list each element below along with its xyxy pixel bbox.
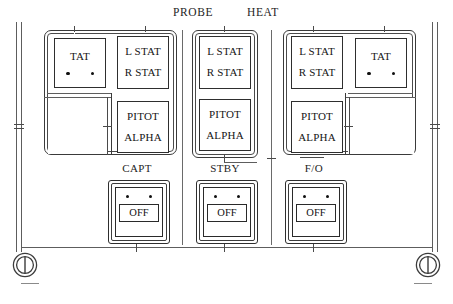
fo-group-tick-b: [384, 26, 385, 32]
annunciator-stat-left[interactable]: L STAT R STAT: [117, 36, 169, 89]
annunciator-label: TAT: [70, 51, 90, 63]
bottom-rail-tick-capt: [136, 243, 137, 252]
indicator-dots: [303, 195, 330, 198]
indicator-dot: [237, 195, 240, 198]
annunciator-label: R STAT: [125, 67, 162, 79]
capt-group-notch-edge-top-inner: [47, 93, 111, 94]
capt-group-tick-b: [145, 26, 146, 32]
annunciator-label: ALPHA: [124, 132, 162, 144]
indicator-dot: [367, 72, 370, 75]
panel-edge-right-tick-b: [430, 128, 440, 129]
panel-edge-left-inner: [21, 22, 22, 252]
fo-group-notch-edge-top-inner: [348, 93, 413, 94]
switch-caption-capt: CAPT: [110, 162, 164, 174]
fastener-bottom-right[interactable]: [415, 252, 441, 278]
annunciator-stat-right[interactable]: L STAT R STAT: [291, 36, 343, 89]
indicator-dots: [66, 72, 94, 75]
capt-group-side-tick: [103, 126, 112, 127]
probe-heat-panel: PROBE HEAT TAT L STAT R STAT PITO: [0, 0, 453, 304]
indicator-dot: [149, 195, 152, 198]
annunciator-pitot-right[interactable]: PITOT ALPHA: [291, 101, 343, 153]
indicator-dot: [392, 72, 395, 75]
annunciator-pitot-center[interactable]: PITOT ALPHA: [199, 99, 251, 151]
stby-group-tick: [224, 26, 225, 32]
divider-left: [182, 30, 183, 245]
annunciator-label: PITOT: [127, 111, 159, 123]
divider-right-tick: [267, 158, 276, 159]
bottom-rail-tick-fo: [313, 243, 314, 252]
annunciator-label: PITOT: [209, 109, 241, 121]
panel-edge-left-outer: [16, 22, 17, 252]
panel-edge-left-tick-b: [14, 128, 24, 129]
annunciator-label: TAT: [371, 51, 391, 63]
annunciator-pitot-left[interactable]: PITOT ALPHA: [117, 101, 169, 153]
fo-group-bottom-tick: [300, 157, 324, 158]
bottom-rail-tick-stby: [224, 243, 225, 252]
indicator-dot: [326, 195, 329, 198]
panel-skirt-right: [414, 283, 432, 284]
switch-stby-face[interactable]: OFF: [203, 187, 251, 237]
switch-caption-fo: F/O: [287, 162, 341, 174]
capt-group-notch-edge-top: [44, 97, 112, 98]
annunciator-tat-right[interactable]: TAT: [355, 38, 407, 88]
annunciator-label: L STAT: [207, 46, 243, 58]
panel-edge-right-tick-a: [430, 124, 440, 125]
annunciator-label: R STAT: [207, 67, 244, 79]
annunciator-stat-center[interactable]: L STAT R STAT: [199, 36, 251, 89]
panel-edge-right-inner: [437, 22, 438, 252]
indicator-dot: [126, 195, 129, 198]
capt-group-notch: [48, 98, 108, 154]
panel-edge-left-tick-a: [14, 124, 24, 125]
fo-group-side-tick: [344, 126, 353, 127]
annunciator-label: L STAT: [125, 46, 161, 58]
annunciator-label: R STAT: [299, 67, 336, 79]
panel-edge-right-outer: [432, 22, 433, 252]
panel-skirt-left: [21, 283, 39, 284]
fo-group-tick-a: [313, 26, 314, 32]
annunciator-label: PITOT: [301, 111, 333, 123]
indicator-dots: [126, 195, 153, 198]
indicator-dot: [91, 72, 94, 75]
indicator-dot: [66, 72, 69, 75]
fastener-bottom-left[interactable]: [12, 252, 38, 278]
indicator-dot: [214, 195, 217, 198]
indicator-dots: [367, 72, 395, 75]
switch-capt-face[interactable]: OFF: [115, 187, 163, 237]
panel-title-heat: HEAT: [247, 6, 279, 18]
switch-caption-stby: STBY: [198, 162, 252, 174]
switch-fo-face[interactable]: OFF: [292, 187, 340, 237]
capt-group-notch-edge-side: [111, 93, 112, 155]
fo-group-notch: [348, 98, 414, 154]
annunciator-tat-left[interactable]: TAT: [54, 38, 106, 88]
annunciator-label: ALPHA: [298, 132, 336, 144]
capt-group-tick-a: [74, 26, 75, 32]
indicator-dots: [214, 195, 241, 198]
annunciator-label: ALPHA: [206, 130, 244, 142]
panel-bottom-rail: [21, 247, 432, 248]
fo-group-notch-edge-side: [345, 93, 346, 155]
indicator-dot: [303, 195, 306, 198]
divider-right: [271, 30, 272, 245]
fo-group-notch-edge-top: [345, 97, 416, 98]
switch-off-label[interactable]: OFF: [207, 204, 246, 222]
switch-off-label[interactable]: OFF: [296, 204, 335, 222]
panel-title-probe: PROBE: [173, 6, 213, 18]
annunciator-label: L STAT: [299, 46, 335, 58]
switch-off-label[interactable]: OFF: [119, 204, 158, 222]
